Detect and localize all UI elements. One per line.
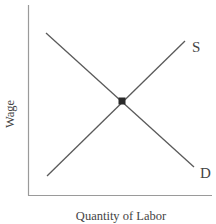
labor-market-chart: S D Quantity of Labor Wage <box>0 0 216 224</box>
y-axis-label: Wage <box>3 99 17 128</box>
x-axis-label: Quantity of Labor <box>76 209 167 223</box>
equilibrium-point <box>119 98 126 105</box>
supply-label: S <box>192 39 200 55</box>
demand-label: D <box>200 165 211 181</box>
supply-curve <box>47 41 185 176</box>
